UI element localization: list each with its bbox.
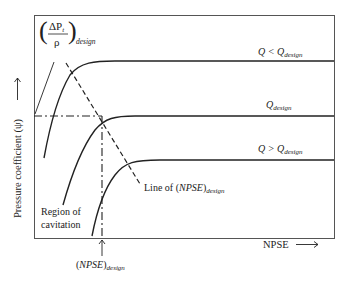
y-axis-label-group: Pressure coefficient (ψ) (12, 78, 24, 218)
region-label-line2: cavitation (41, 219, 80, 230)
label-numerator: ΔPt (49, 20, 65, 34)
label-denominator: ρ (54, 36, 60, 48)
npse-line-label: Line of (NPSE)design (144, 182, 225, 195)
y-axis-label: Pressure coefficient (ψ) (12, 118, 24, 218)
curve-label-q-less: Q < Qdesign (258, 46, 303, 59)
head-design-label: ( ΔPt ρ ) design (39, 16, 96, 48)
top-label-leader (35, 62, 54, 114)
label-subscript: design (76, 37, 96, 46)
npse-design-label: (NPSE)design (76, 259, 125, 272)
curve-label-q-greater: Q > Qdesign (258, 143, 303, 156)
x-axis-label: NPSE (263, 239, 289, 250)
svg-text:(: ( (39, 16, 48, 45)
right-arrow-icon (296, 242, 318, 248)
up-arrow-icon (99, 240, 105, 256)
region-label-line1: Region of (41, 206, 81, 217)
curve-q-greater-than-design (92, 160, 334, 236)
npse-design-line (66, 63, 140, 184)
curve-label-q-design: Qdesign (266, 99, 292, 112)
diagram-canvas: ( ΔPt ρ ) design Q < Qdesign Qdesign Q >… (0, 0, 351, 285)
